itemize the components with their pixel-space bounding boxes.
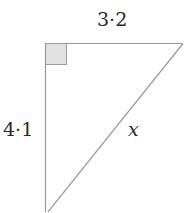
triangle-figure: [0, 0, 184, 212]
hypotenuse-label: x: [128, 120, 139, 139]
left-side-label: 4·1: [3, 120, 33, 139]
hypotenuse: [48, 44, 183, 213]
right-angle-marker: [46, 44, 67, 65]
top-side-label: 3·2: [97, 10, 127, 29]
